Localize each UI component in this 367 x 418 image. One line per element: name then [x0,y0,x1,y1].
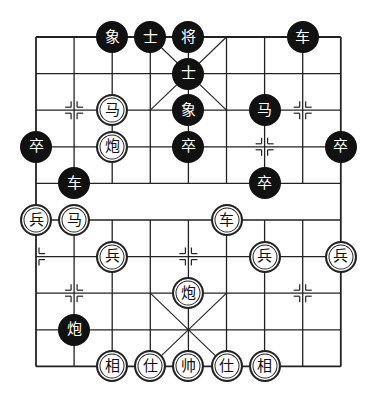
red-soldier-piece[interactable]: 兵 [249,241,281,273]
red-elephant-piece[interactable]: 相 [249,350,281,382]
black-soldier-piece[interactable]: 卒 [172,131,204,163]
red-chariot-piece[interactable]: 车 [211,204,243,236]
black-soldier-piece[interactable]: 卒 [20,131,52,163]
black-elephant-piece[interactable]: 象 [96,21,128,53]
black-horse-piece[interactable]: 马 [249,94,281,126]
black-cannon-piece[interactable]: 炮 [58,314,90,346]
black-advisor-piece[interactable]: 士 [172,58,204,90]
red-soldier-piece[interactable]: 兵 [20,204,52,236]
red-advisor-piece[interactable]: 仕 [211,350,243,382]
red-soldier-piece[interactable]: 兵 [325,241,357,273]
red-horse-piece[interactable]: 马 [58,204,90,236]
red-soldier-piece[interactable]: 兵 [96,241,128,273]
black-soldier-piece[interactable]: 卒 [249,167,281,199]
black-soldier-piece[interactable]: 卒 [325,131,357,163]
black-chariot-piece[interactable]: 车 [287,21,319,53]
red-cannon-piece[interactable]: 炮 [96,131,128,163]
